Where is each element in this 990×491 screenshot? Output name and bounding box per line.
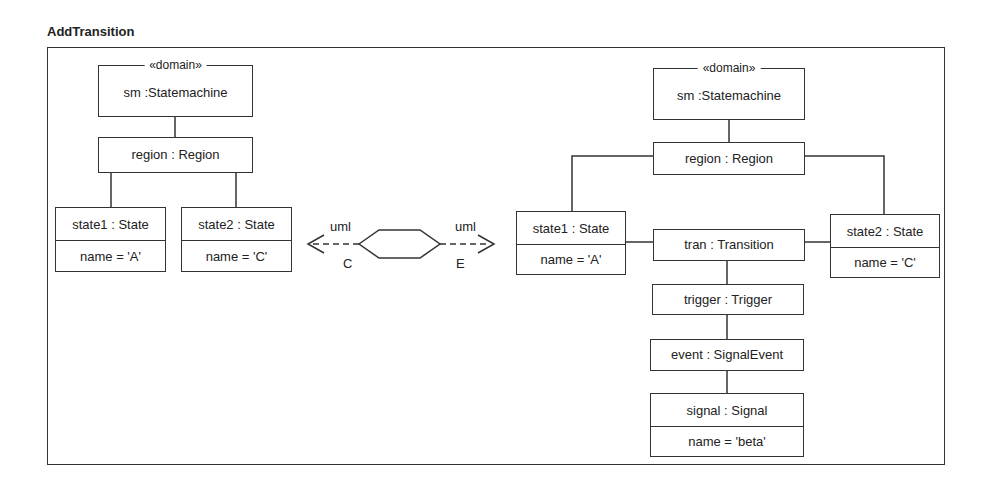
object-label: state1 : State (517, 212, 625, 244)
domain-stereotype: «domain» (144, 57, 207, 73)
domain-stereotype: «domain» (698, 60, 761, 76)
object-attribute: name = 'beta' (651, 426, 803, 456)
left-domain-mode-label: C (343, 256, 352, 271)
object-attribute: name = 'C' (182, 240, 291, 271)
right-transition-object[interactable]: tran : Transition (653, 229, 805, 261)
object-attribute: name = 'C' (831, 247, 939, 277)
object-label: state2 : State (182, 208, 291, 240)
object-attribute: name = 'A' (517, 244, 625, 274)
right-domain-mode-label: E (456, 256, 465, 271)
right-event-object[interactable]: event : SignalEvent (650, 339, 804, 371)
object-label: region : Region (654, 143, 804, 173)
object-attribute: name = 'A' (56, 240, 165, 271)
left-domain-model-label: uml (330, 219, 351, 234)
object-label: sm :Statemachine (99, 66, 252, 115)
object-label: region : Region (99, 138, 252, 171)
right-signal-object[interactable]: signal : Signal name = 'beta' (650, 393, 804, 457)
object-label: signal : Signal (651, 394, 803, 426)
left-state1-object[interactable]: state1 : State name = 'A' (55, 207, 166, 272)
object-label: sm :Statemachine (654, 69, 804, 118)
left-state2-object[interactable]: state2 : State name = 'C' (181, 207, 292, 272)
left-region-object[interactable]: region : Region (98, 137, 253, 173)
right-statemachine-object[interactable]: «domain» sm :Statemachine (653, 68, 805, 120)
object-label: state1 : State (56, 208, 165, 240)
right-state2-object[interactable]: state2 : State name = 'C' (830, 214, 940, 278)
object-label: tran : Transition (654, 230, 804, 259)
right-trigger-object[interactable]: trigger : Trigger (652, 284, 804, 315)
object-label: event : SignalEvent (651, 340, 803, 369)
object-label: state2 : State (831, 215, 939, 247)
right-region-object[interactable]: region : Region (653, 142, 805, 175)
object-label: trigger : Trigger (653, 285, 803, 313)
right-domain-model-label: uml (455, 219, 476, 234)
left-statemachine-object[interactable]: «domain» sm :Statemachine (98, 65, 253, 117)
right-state1-object[interactable]: state1 : State name = 'A' (516, 211, 626, 275)
